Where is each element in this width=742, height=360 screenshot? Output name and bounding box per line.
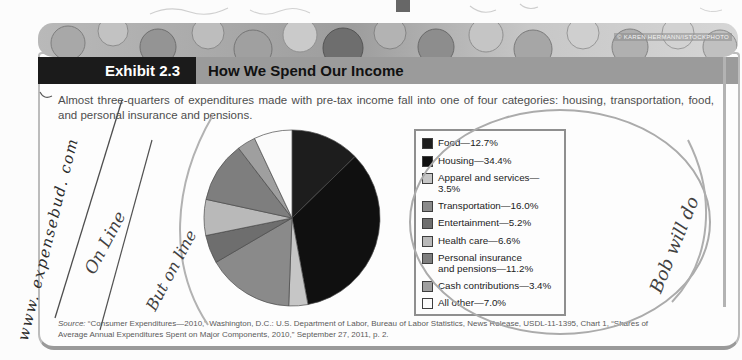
legend-label: Cash contributions—3.4% bbox=[438, 280, 551, 291]
legend-swatch-transportation bbox=[422, 201, 433, 212]
legend-item-entertainment: Entertainment—5.2% bbox=[422, 217, 559, 229]
legend-item-apparel: Apparel and services—3.5% bbox=[422, 172, 559, 194]
page-edge-line bbox=[723, 57, 726, 307]
legend-label: Apparel and services—3.5% bbox=[438, 172, 559, 194]
exhibit-title-bar: Exhibit 2.3 How We Spend Our Income bbox=[38, 57, 738, 84]
coins-photo: © KAREN HERMANN/ISTOCKPHOTO bbox=[38, 23, 738, 57]
source-prefix: Source: bbox=[58, 319, 86, 328]
legend-swatch-entertainment bbox=[422, 218, 433, 229]
legend-item-personal-insurance: Personal insurance and pensions—11.2% bbox=[422, 252, 559, 274]
legend-item-cash-contributions: Cash contributions—3.4% bbox=[422, 280, 559, 292]
legend-swatch-food bbox=[422, 138, 433, 149]
scanned-textbook-page: © KAREN HERMANN/ISTOCKPHOTO Exhibit 2.3 … bbox=[0, 0, 742, 360]
source-note: Source: “Consumer Expenditures—2010,” Wa… bbox=[58, 319, 712, 340]
legend-swatch-health-care bbox=[422, 236, 433, 247]
legend-label: Entertainment—5.2% bbox=[438, 217, 531, 228]
legend-label: Transportation—16.0% bbox=[438, 200, 538, 211]
intro-paragraph: Almost three-quarters of expenditures ma… bbox=[58, 93, 714, 123]
pie-chart-svg bbox=[202, 128, 382, 308]
legend-item-food: Food—12.7% bbox=[422, 137, 559, 149]
legend-swatch-cash-contributions bbox=[422, 281, 433, 292]
pie-chart bbox=[202, 128, 382, 308]
legend-swatch-personal-insurance bbox=[422, 253, 433, 264]
exhibit-number: Exhibit 2.3 bbox=[38, 57, 196, 84]
scan-artifact-mark bbox=[396, 0, 410, 12]
legend-item-health-care: Health care—6.6% bbox=[422, 235, 559, 247]
legend-item-transportation: Transportation—16.0% bbox=[422, 200, 559, 212]
legend-swatch-apparel bbox=[422, 173, 433, 184]
legend-swatch-all-other bbox=[422, 298, 433, 309]
legend-item-housing: Housing—34.4% bbox=[422, 155, 559, 167]
source-text-line1: “Consumer Expenditures—2010,” Washington… bbox=[88, 319, 648, 328]
legend-item-all-other: All other—7.0% bbox=[422, 297, 559, 309]
legend-label: Food—12.7% bbox=[438, 137, 498, 148]
legend-label: Personal insurance and pensions—11.2% bbox=[438, 252, 533, 274]
pie-legend: Food—12.7% Housing—34.4% Apparel and ser… bbox=[414, 129, 566, 316]
legend-swatch-housing bbox=[422, 156, 433, 167]
source-text-line2: Average Annual Expenditures Spent on Maj… bbox=[58, 330, 389, 339]
exhibit-title: How We Spend Our Income bbox=[196, 57, 738, 84]
photo-credit: © KAREN HERMANN/ISTOCKPHOTO bbox=[614, 33, 732, 41]
legend-label: All other—7.0% bbox=[438, 297, 506, 308]
legend-label: Housing—34.4% bbox=[438, 155, 512, 166]
legend-label: Health care—6.6% bbox=[438, 235, 520, 246]
